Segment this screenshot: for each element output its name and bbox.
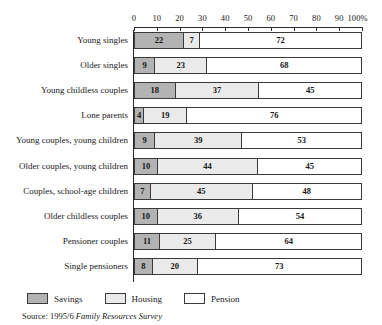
bar-segment-value: 45 bbox=[305, 162, 314, 171]
bar-segment-value: 73 bbox=[275, 262, 284, 271]
bar-track: 93953 bbox=[134, 132, 362, 149]
category-label: Young couples, young children bbox=[2, 135, 128, 146]
bar-segment-value: 11 bbox=[143, 237, 151, 246]
bar-row: 112564 bbox=[134, 233, 362, 250]
axis-tick bbox=[362, 27, 363, 31]
bar-row: 92368 bbox=[134, 57, 362, 74]
bar-segment-savings: 10 bbox=[135, 159, 158, 174]
category-label: Older childless couples bbox=[2, 211, 128, 222]
bar-segment-savings: 22 bbox=[135, 33, 184, 48]
legend-item-housing: Housing bbox=[105, 293, 163, 304]
bar-segment-housing: 25 bbox=[160, 234, 217, 249]
category-axis-labels: Young singlesOlder singlesYoung childles… bbox=[0, 30, 128, 282]
axis-tick-label: 0 bbox=[132, 14, 136, 23]
bar-row: 74548 bbox=[134, 183, 362, 200]
bar-row: 103654 bbox=[134, 208, 362, 225]
plot-area: 2277292368183745419769395310444574548103… bbox=[134, 30, 362, 282]
bar-track: 41976 bbox=[134, 107, 362, 124]
bar-segment-housing: 23 bbox=[155, 58, 207, 73]
bar-segment-value: 7 bbox=[140, 187, 144, 196]
bar-segment-housing: 45 bbox=[151, 184, 253, 199]
legend-label: Pension bbox=[211, 294, 240, 304]
bar-segment-pension: 45 bbox=[259, 83, 361, 98]
bar-segment-value: 68 bbox=[280, 61, 289, 70]
axis-tick-label: 20 bbox=[175, 14, 184, 23]
legend-item-savings: Savings bbox=[27, 293, 83, 304]
category-label: Couples, school-age children bbox=[2, 186, 128, 197]
bar-segment-pension: 45 bbox=[258, 159, 361, 174]
bar-segment-value: 64 bbox=[284, 237, 293, 246]
axis-tick-label: 40 bbox=[221, 14, 230, 23]
bar-segment-savings: 9 bbox=[135, 133, 155, 148]
bar-segment-value: 45 bbox=[197, 187, 206, 196]
bar-segment-value: 10 bbox=[142, 162, 151, 171]
source-note: Source: 1995/6 Family Resources Survey bbox=[22, 311, 162, 321]
bar-segment-housing: 36 bbox=[158, 209, 239, 224]
chart-legend: SavingsHousingPension bbox=[27, 292, 262, 305]
bar-segment-savings: 18 bbox=[135, 83, 176, 98]
bar-segment-value: 7 bbox=[189, 36, 193, 45]
bar-segment-housing: 20 bbox=[153, 259, 198, 274]
axis-tick-label: 100% bbox=[347, 14, 367, 23]
category-label: Young childless couples bbox=[2, 85, 128, 96]
bar-segment-housing: 7 bbox=[184, 33, 200, 48]
bar-segment-value: 45 bbox=[306, 86, 315, 95]
bar-segment-savings: 8 bbox=[135, 259, 153, 274]
bar-segment-savings: 10 bbox=[135, 209, 158, 224]
legend-label: Savings bbox=[54, 294, 83, 304]
axis-tick-label: 90 bbox=[335, 14, 344, 23]
category-label: Pensioner couples bbox=[2, 236, 128, 247]
bar-segment-value: 39 bbox=[194, 136, 203, 145]
bar-segment-value: 20 bbox=[171, 262, 180, 271]
bar-track: 82073 bbox=[134, 258, 362, 275]
bar-row: 183745 bbox=[134, 82, 362, 99]
bar-segment-pension: 53 bbox=[242, 133, 361, 148]
category-label: Older couples, young children bbox=[2, 161, 128, 172]
bar-track: 103654 bbox=[134, 208, 362, 225]
bar-segment-pension: 64 bbox=[216, 234, 361, 249]
stacked-bar-chart: 0102030405060708090100% Young singlesOld… bbox=[0, 0, 382, 325]
bar-segment-savings: 9 bbox=[135, 58, 155, 73]
bar-segment-value: 44 bbox=[203, 162, 212, 171]
bar-segment-value: 9 bbox=[143, 61, 147, 70]
bar-segment-value: 25 bbox=[183, 237, 192, 246]
bar-row: 41976 bbox=[134, 107, 362, 124]
bar-track: 112564 bbox=[134, 233, 362, 250]
axis-tick-label: 80 bbox=[312, 14, 321, 23]
legend-item-pension: Pension bbox=[184, 293, 240, 304]
category-label: Older singles bbox=[2, 60, 128, 71]
bar-segment-pension: 72 bbox=[200, 33, 361, 48]
legend-label: Housing bbox=[132, 294, 163, 304]
axis-tick-label: 60 bbox=[266, 14, 275, 23]
bar-track: 183745 bbox=[134, 82, 362, 99]
bar-row: 93953 bbox=[134, 132, 362, 149]
category-label: Lone parents bbox=[2, 110, 128, 121]
bar-track: 104445 bbox=[134, 158, 362, 175]
bar-track: 92368 bbox=[134, 57, 362, 74]
bar-segment-value: 36 bbox=[194, 212, 203, 221]
bar-segment-value: 48 bbox=[302, 187, 311, 196]
bar-segment-value: 10 bbox=[142, 212, 151, 221]
bar-segment-housing: 19 bbox=[144, 108, 187, 123]
bar-row: 104445 bbox=[134, 158, 362, 175]
bar-segment-pension: 76 bbox=[187, 108, 360, 123]
bar-segment-value: 19 bbox=[161, 111, 170, 120]
bar-segment-value: 72 bbox=[276, 36, 285, 45]
bar-segment-value: 23 bbox=[177, 61, 186, 70]
bar-segment-value: 18 bbox=[151, 86, 160, 95]
bar-segment-value: 9 bbox=[142, 136, 146, 145]
bar-segment-value: 8 bbox=[141, 262, 145, 271]
bar-segment-value: 76 bbox=[270, 111, 279, 120]
bar-segment-pension: 73 bbox=[198, 259, 361, 274]
legend-swatch-pension bbox=[184, 293, 205, 304]
bar-segment-savings: 4 bbox=[135, 108, 144, 123]
bar-segment-value: 4 bbox=[137, 111, 141, 120]
source-publication: Family Resources Survey bbox=[76, 311, 162, 321]
axis-tick-label: 50 bbox=[244, 14, 253, 23]
bar-segment-housing: 39 bbox=[155, 133, 242, 148]
bar-row: 82073 bbox=[134, 258, 362, 275]
value-axis: 0102030405060708090100% bbox=[134, 14, 362, 30]
axis-tick-label: 70 bbox=[289, 14, 298, 23]
bar-segment-value: 53 bbox=[297, 136, 306, 145]
category-label: Young singles bbox=[2, 35, 128, 46]
